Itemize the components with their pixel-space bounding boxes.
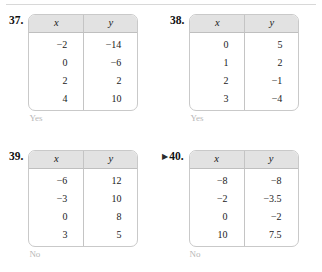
exercise-sheet: 37. x y −2 −14 0 −6 [0, 0, 322, 272]
exercise-number: 39. [9, 151, 23, 163]
table-row: −8 −8 [190, 169, 298, 190]
cell-x: 3 [190, 90, 244, 110]
table-row: 4 10 [29, 90, 137, 110]
column-header-y: y [83, 15, 137, 33]
table-header-row: x y [29, 151, 137, 169]
column-header-y: y [83, 151, 137, 169]
cell-y: −14 [83, 33, 137, 54]
cell-y: 5 [83, 226, 137, 246]
cell-x: 4 [29, 90, 83, 110]
cell-x: −2 [190, 190, 244, 208]
table-row: 3 5 [29, 226, 137, 246]
cell-y: −4 [244, 90, 298, 110]
table-header-row: x y [190, 151, 298, 169]
cell-y: 2 [83, 72, 137, 90]
table-body: −8 −8 −2 −3.5 0 −2 10 7.5 [190, 169, 298, 246]
column-header-x: x [190, 15, 244, 33]
cell-y: 2 [244, 54, 298, 72]
exercise-table-wrap: x y −8 −8 −2 −3.5 0 −2 [189, 150, 299, 259]
answer-text: No [29, 250, 138, 259]
cell-y: 8 [83, 208, 137, 226]
table-row: −3 10 [29, 190, 137, 208]
table-head: x y [29, 15, 137, 33]
table-row: −6 12 [29, 169, 137, 190]
column-header-y: y [244, 15, 298, 33]
xy-table: x y −8 −8 −2 −3.5 0 −2 [189, 150, 299, 247]
cell-y: 12 [83, 169, 137, 190]
cell-y: −6 [83, 54, 137, 72]
exercise-number: 40. [169, 151, 183, 163]
table-row: 0 −6 [29, 54, 137, 72]
table-header-row: x y [29, 15, 137, 33]
cell-x: −6 [29, 169, 83, 190]
table-body: −6 12 −3 10 0 8 3 5 [29, 169, 137, 246]
exercise-40: ▶ 40. x y −8 −8 −2 −3.5 [162, 150, 299, 259]
answer-text: Yes [190, 114, 299, 123]
cell-y: 10 [83, 190, 137, 208]
cell-x: 1 [190, 54, 244, 72]
answer-text: No [190, 250, 299, 259]
cell-x: 0 [29, 54, 83, 72]
cell-y: −8 [244, 169, 298, 190]
column-header-x: x [29, 15, 83, 33]
cell-y: −3.5 [244, 190, 298, 208]
cell-x: −2 [29, 33, 83, 54]
cell-x: 2 [190, 72, 244, 90]
table-body: −2 −14 0 −6 2 2 4 10 [29, 33, 137, 110]
column-header-x: x [190, 151, 244, 169]
column-header-x: x [29, 151, 83, 169]
table-row: 0 5 [190, 33, 298, 54]
exercise-38: 38. x y 0 5 1 2 [169, 14, 299, 123]
cell-y: −2 [244, 208, 298, 226]
table-row: 2 2 [29, 72, 137, 90]
cell-x: 0 [190, 33, 244, 54]
xy-table: x y −6 12 −3 10 0 8 [28, 150, 138, 247]
table-row: 1 2 [190, 54, 298, 72]
table-row: 0 −2 [190, 208, 298, 226]
cell-x: 3 [29, 226, 83, 246]
table-row: −2 −14 [29, 33, 137, 54]
column-header-y: y [244, 151, 298, 169]
cell-x: 10 [190, 226, 244, 246]
table-header-row: x y [190, 15, 298, 33]
cell-x: 2 [29, 72, 83, 90]
xy-table: x y 0 5 1 2 2 −1 [189, 14, 299, 111]
table-head: x y [29, 151, 137, 169]
exercise-marker-icon: ▶ [162, 153, 168, 161]
cell-y: 5 [244, 33, 298, 54]
xy-table: x y −2 −14 0 −6 2 2 [28, 14, 138, 111]
cell-x: 0 [190, 208, 244, 226]
exercise-number: 37. [9, 15, 23, 27]
exercise-table-wrap: x y 0 5 1 2 2 −1 [189, 14, 299, 123]
exercise-39: 39. x y −6 12 −3 10 [8, 150, 138, 259]
exercise-37: 37. x y −2 −14 0 −6 [8, 14, 138, 123]
exercise-table-wrap: x y −6 12 −3 10 0 8 [28, 150, 138, 259]
table-row: 2 −1 [190, 72, 298, 90]
cell-y: 7.5 [244, 226, 298, 246]
exercise-table-wrap: x y −2 −14 0 −6 2 2 [28, 14, 138, 123]
table-row: −2 −3.5 [190, 190, 298, 208]
cell-x: −8 [190, 169, 244, 190]
cell-x: 0 [29, 208, 83, 226]
cell-y: −1 [244, 72, 298, 90]
table-row: 10 7.5 [190, 226, 298, 246]
cell-x: −3 [29, 190, 83, 208]
exercise-number: 38. [170, 15, 184, 27]
table-head: x y [190, 15, 298, 33]
table-body: 0 5 1 2 2 −1 3 −4 [190, 33, 298, 110]
table-row: 0 8 [29, 208, 137, 226]
table-head: x y [190, 151, 298, 169]
answer-text: Yes [29, 114, 138, 123]
cell-y: 10 [83, 90, 137, 110]
table-row: 3 −4 [190, 90, 298, 110]
